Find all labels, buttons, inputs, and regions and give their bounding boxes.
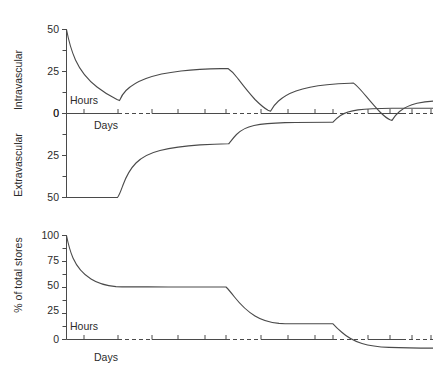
panel-label-total-stores: % of total stores: [12, 237, 24, 312]
ytick-label-total-25: 25: [47, 304, 59, 316]
ytick-label-total-100: 100: [41, 229, 59, 241]
figure-container: Intravascular 50 25 0 Hours: [0, 0, 433, 371]
ytick-label-intravascular-25: 25: [47, 65, 59, 77]
pharmacokinetics-chart: Intravascular 50 25 0 Hours: [0, 0, 433, 371]
ytick-label-extravascular-50: 50: [47, 191, 59, 203]
ytick-label-total-75: 75: [47, 254, 59, 266]
ytick-label-intravascular-50: 50: [47, 23, 59, 35]
ytick-label-extravascular-0: 0: [53, 107, 59, 119]
hours-label-total-stores: Hours: [70, 320, 98, 332]
panel-label-extravascular: Extravascular: [12, 133, 24, 197]
ytick-label-total-0: 0: [53, 333, 59, 345]
ytick-label-extravascular-25: 25: [47, 149, 59, 161]
panel-label-intravascular: Intravascular: [12, 49, 24, 110]
chart-background: [0, 0, 433, 371]
ytick-label-total-50: 50: [47, 279, 59, 291]
days-label-extravascular: Days: [94, 119, 118, 131]
hours-label-intravascular: Hours: [70, 94, 98, 106]
days-label-total-stores: Days: [94, 351, 118, 363]
